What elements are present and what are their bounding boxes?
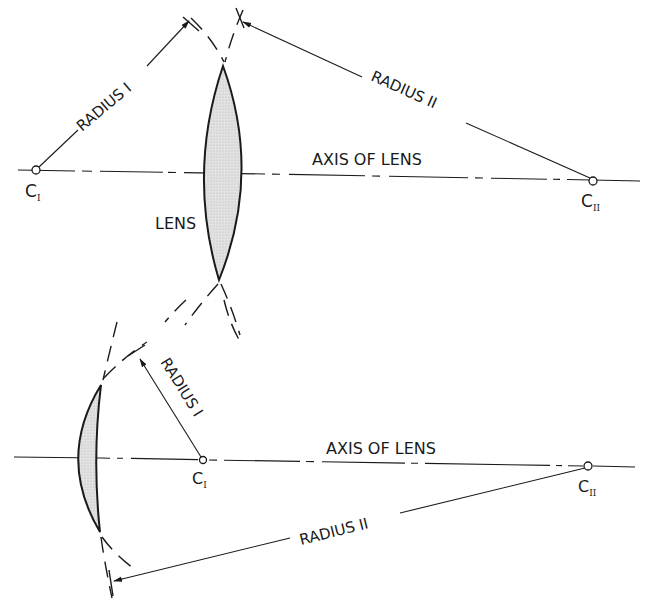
top-axis-line	[18, 170, 640, 181]
bottom-center-2-label: CII	[578, 477, 597, 498]
bottom-axis-line	[14, 457, 635, 467]
bottom-center-1-label: CI	[192, 469, 207, 490]
bottom-center-1-point	[200, 457, 207, 464]
bottom-center-1-sub: I	[203, 480, 207, 490]
top-center-2-point	[589, 177, 597, 185]
top-axis-label: AXIS OF LENS	[312, 150, 422, 169]
bottom-axis-label: AXIS OF LENS	[326, 439, 436, 458]
top-center-1-point	[32, 166, 40, 174]
bottom-lens-figure: RADIUS I RADIUS II AXIS OF LENS CI CII	[14, 300, 635, 598]
top-radius-1-label: RADIUS I	[73, 79, 135, 135]
top-center-2-label: CII	[581, 191, 600, 213]
bottom-radius-1-label: RADIUS I	[157, 355, 207, 420]
top-center-1-label: CI	[25, 181, 41, 203]
bottom-lens-arc-extensions	[101, 300, 241, 598]
diagram-canvas: RADIUS I RADIUS II AXIS OF LENS LENS CI …	[0, 0, 647, 612]
top-lens-label: LENS	[155, 214, 196, 233]
bottom-center-2-sub: II	[589, 488, 597, 498]
top-center-2-sub: II	[593, 203, 601, 213]
bottom-center-2-point	[584, 462, 592, 470]
bottom-radius-2-label: RADIUS II	[298, 514, 370, 548]
top-lens-figure: RADIUS I RADIUS II AXIS OF LENS LENS CI …	[18, 8, 640, 335]
top-radius-2-label: RADIUS II	[368, 67, 439, 112]
lens-radii-diagram: RADIUS I RADIUS II AXIS OF LENS LENS CI …	[0, 0, 647, 612]
top-lens-shape	[204, 66, 242, 280]
top-center-1-sub: I	[37, 193, 41, 203]
